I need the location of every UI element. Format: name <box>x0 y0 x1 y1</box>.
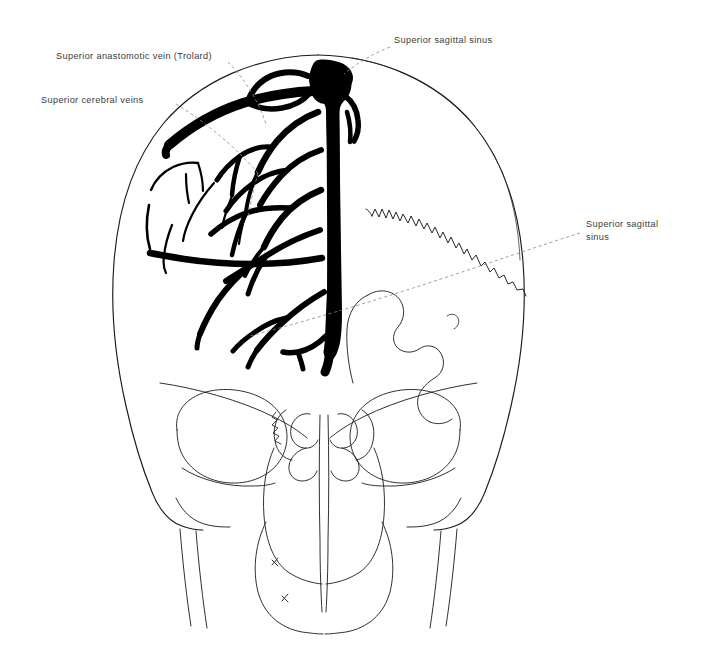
superior-sagittal-sinus <box>309 60 353 372</box>
anatomy-figure: Superior anastomotic vein (Trolard) Supe… <box>0 0 701 662</box>
label-superior-cerebral-veins: Superior cerebral veins <box>41 95 144 105</box>
sphenoid-wing <box>347 291 459 424</box>
label-superior-sagittal-sinus-top: Superior sagittal sinus <box>394 35 492 45</box>
right-orbit <box>330 383 477 486</box>
leader-trolard <box>228 62 266 124</box>
label-superior-sagittal-sinus-right-line2: sinus <box>586 232 609 242</box>
label-superior-anastomotic-vein: Superior anastomotic vein (Trolard) <box>56 51 212 61</box>
leader-lines <box>176 47 580 336</box>
label-superior-sagittal-sinus-right-line1: Superior sagittal <box>586 219 658 229</box>
left-orbit <box>160 383 307 486</box>
cranial-suture <box>366 209 526 296</box>
skull-venous-diagram: Superior anastomotic vein (Trolard) Supe… <box>0 0 701 662</box>
nasal-cavity <box>255 410 393 634</box>
mandible-rami <box>176 498 461 628</box>
leader-sagittal-sinus-right <box>250 233 580 336</box>
superior-anastomotic-vein <box>166 72 314 155</box>
